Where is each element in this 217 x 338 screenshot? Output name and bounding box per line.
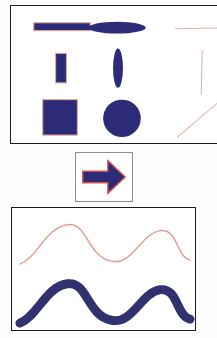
horizontal-line-shape	[175, 28, 217, 29]
curves-svg	[12, 208, 195, 330]
tall-rectangle-shape	[56, 53, 67, 83]
wide-rectangle-shape	[34, 23, 90, 31]
curves-panel	[11, 207, 196, 331]
vertical-line-shape	[201, 50, 202, 94]
arrow-panel	[75, 152, 133, 202]
thick-curve	[20, 284, 190, 324]
thin-curve	[20, 225, 190, 265]
diagonal-line-shape	[177, 102, 217, 137]
circle-shape	[103, 100, 141, 137]
square-shape	[43, 100, 78, 135]
arrow-right-icon	[76, 153, 132, 201]
tall-ellipse-shape	[113, 48, 123, 87]
shapes-panel	[10, 5, 217, 144]
wide-ellipse-shape	[88, 22, 145, 34]
shapes-grid-svg	[11, 6, 217, 143]
